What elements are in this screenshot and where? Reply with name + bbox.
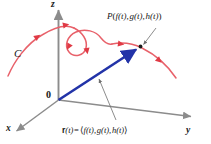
diagram-svg xyxy=(0,0,211,144)
point-component-f: f(t) xyxy=(116,11,127,21)
curve-segment-right xyxy=(112,43,176,78)
position-vector-arrow xyxy=(59,50,137,101)
curve-arrow-3 xyxy=(64,43,72,52)
y-axis-line xyxy=(59,100,192,117)
vector-label-leader xyxy=(99,79,116,120)
position-vector-label: r(t) = ⟨f(t), g(t), h(t)⟩ xyxy=(62,126,128,135)
point-label-leader xyxy=(144,28,157,45)
point-close-paren: ) xyxy=(159,11,162,21)
figure-canvas: z y x 0 C P(f(t), g(t), h(t)) r(t) = ⟨f(… xyxy=(0,0,211,144)
curve-arrow-2 xyxy=(62,21,70,28)
point-P-dot xyxy=(139,45,143,49)
point-component-g: g(t) xyxy=(130,11,143,21)
z-axis-label: z xyxy=(51,0,55,10)
vector-component-f: f(t) xyxy=(84,125,94,135)
vector-close-angle: ⟩ xyxy=(124,125,128,135)
x-axis-label: x xyxy=(6,124,11,134)
vector-component-g: g(t) xyxy=(97,125,109,135)
curve-loop xyxy=(67,28,112,55)
vector-component-h: h(t) xyxy=(112,125,124,135)
point-P-label: P(f(t), g(t), h(t)) xyxy=(107,12,162,21)
point-component-h: h(t) xyxy=(146,11,159,21)
curve-arrow-5 xyxy=(118,40,125,47)
x-axis-line xyxy=(17,100,59,131)
y-axis-label: y xyxy=(186,126,190,136)
origin-label: 0 xyxy=(46,90,51,100)
space-curve-group xyxy=(8,26,176,78)
curve-label-C: C xyxy=(14,48,21,59)
